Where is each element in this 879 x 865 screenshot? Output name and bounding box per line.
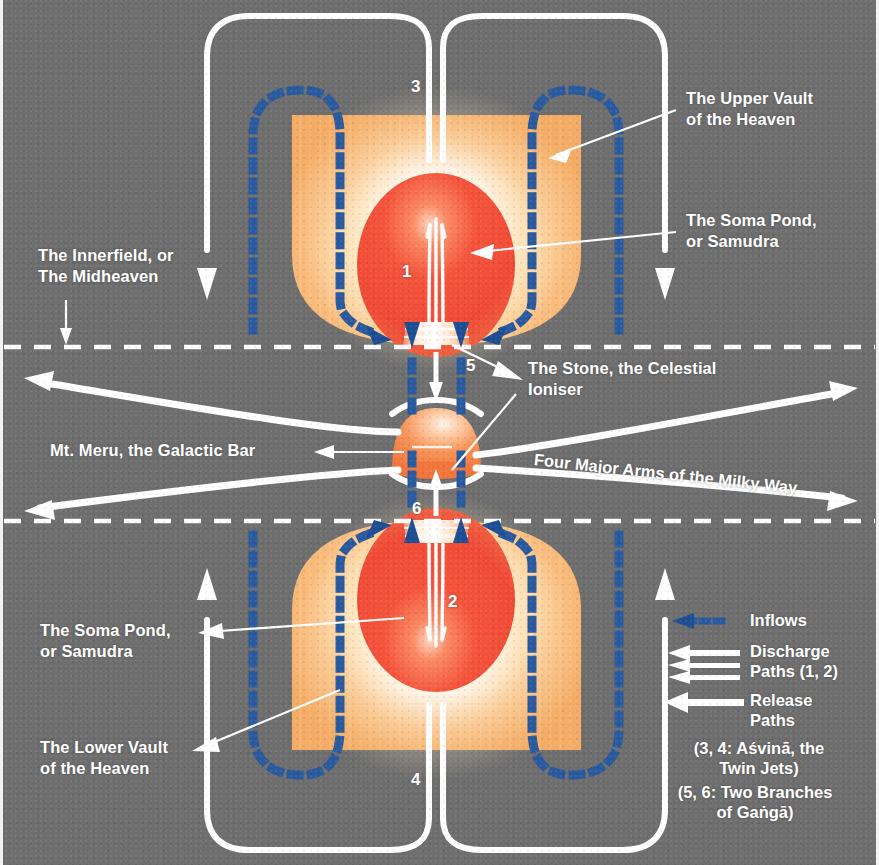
marker-4: 4: [411, 770, 420, 790]
legend-discharge-icon: [668, 645, 740, 684]
marker-5: 5: [466, 356, 475, 376]
label-upper-soma-pond: The Soma Pond, or Samudra: [686, 210, 817, 252]
legend-note-asvina: (3, 4: Aśvinā, the Twin Jets): [648, 738, 870, 778]
upper-discharge-paths: [427, 219, 445, 336]
marker-6: 6: [412, 499, 421, 519]
mt-meru-shape: [391, 408, 481, 479]
legend-label-release: Release Paths: [750, 690, 812, 730]
legend-symbols: [664, 613, 744, 713]
label-innerfield: The Innerfield, or The Midheaven: [38, 245, 174, 287]
diagram-canvas: The Upper Vault of the Heaven The Soma P…: [0, 0, 879, 865]
label-mt-meru: Mt. Meru, the Galactic Bar: [50, 440, 255, 461]
legend-release-icon: [664, 692, 744, 713]
label-the-stone: The Stone, the Celestial Ioniser: [528, 358, 717, 400]
legend-label-inflows: Inflows: [750, 610, 807, 630]
marker-2: 2: [448, 592, 457, 612]
label-upper-vault: The Upper Vault of the Heaven: [686, 88, 813, 130]
label-lower-soma-pond: The Soma Pond, or Samudra: [40, 620, 171, 662]
legend-inflow-icon: [672, 613, 730, 629]
marker-3: 3: [411, 77, 420, 97]
label-lower-vault: The Lower Vault of the Heaven: [40, 737, 168, 779]
lower-discharge-paths: [427, 529, 445, 646]
marker-1: 1: [402, 262, 411, 282]
legend-label-discharge: Discharge Paths (1, 2): [750, 641, 838, 681]
legend-note-ganga: (5, 6: Two Branches of Gaṅgā): [640, 782, 870, 822]
